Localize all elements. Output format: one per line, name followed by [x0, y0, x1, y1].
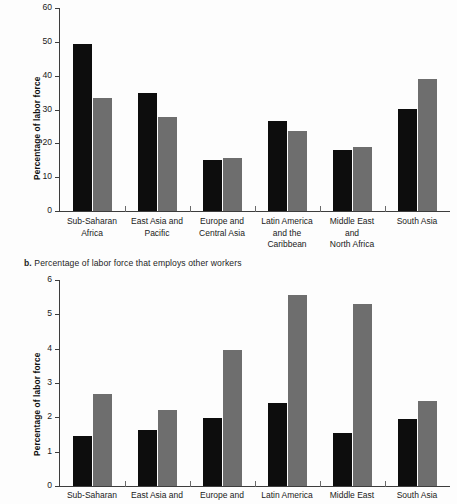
- x-category-label: Middle East and North Africa: [320, 216, 385, 251]
- x-group-separator: [385, 206, 386, 212]
- y-tick-mark: [55, 177, 59, 178]
- bar: [203, 418, 222, 486]
- x-category-label: South Asia: [385, 490, 450, 502]
- y-tick-label: 6: [29, 274, 52, 284]
- x-category-label: Latin America and the Caribbean: [255, 216, 320, 251]
- bar: [203, 160, 222, 211]
- bar: [333, 150, 352, 211]
- bar: [138, 430, 157, 486]
- y-tick-mark: [55, 314, 59, 315]
- figure-page: 0102030405060Percentage of labor forceSu…: [0, 0, 457, 504]
- bar: [268, 121, 287, 211]
- x-category-label: Europe and: [190, 490, 255, 502]
- bar: [93, 98, 112, 211]
- x-category-label: East Asia and Pacific: [125, 216, 190, 239]
- bar: [288, 295, 307, 486]
- x-category-label: South Asia: [385, 216, 450, 228]
- bar: [93, 394, 112, 486]
- x-group-separator: [190, 481, 191, 487]
- x-category-label: Middle East: [320, 490, 385, 502]
- bar: [138, 93, 157, 211]
- bar: [288, 131, 307, 211]
- y-tick-mark: [55, 143, 59, 144]
- y-tick-label: 5: [29, 308, 52, 318]
- bar: [398, 109, 417, 211]
- y-tick-mark: [55, 349, 59, 350]
- x-group-separator: [320, 206, 321, 212]
- y-tick-mark: [55, 280, 59, 281]
- y-axis-line: [59, 280, 60, 487]
- y-tick-mark: [55, 76, 59, 77]
- x-category-label: Sub-Saharan Africa: [60, 216, 125, 239]
- x-category-label: Latin America: [255, 490, 320, 502]
- bar: [418, 79, 437, 211]
- y-tick-mark: [55, 8, 59, 9]
- y-tick-label: 50: [29, 36, 52, 46]
- bar: [333, 433, 352, 486]
- y-tick-mark: [55, 383, 59, 384]
- x-group-separator: [385, 481, 386, 487]
- x-group-separator: [125, 481, 126, 487]
- y-tick-label: 0: [29, 205, 52, 215]
- bar: [418, 401, 437, 486]
- y-tick-mark: [55, 486, 59, 487]
- y-tick-mark: [55, 42, 59, 43]
- y-axis-title: Percentage of labor force: [32, 77, 42, 181]
- bar: [353, 147, 372, 211]
- x-group-separator: [320, 481, 321, 487]
- bar: [223, 350, 242, 486]
- y-tick-mark: [55, 452, 59, 453]
- x-group-separator: [255, 481, 256, 487]
- bar: [353, 304, 372, 486]
- x-category-label: East Asia and: [125, 490, 190, 502]
- y-tick-mark: [55, 417, 59, 418]
- x-category-label: Europe and Central Asia: [190, 216, 255, 239]
- plot-area-b: 0123456Percentage of labor forceSub-Saha…: [0, 256, 457, 504]
- bar: [268, 403, 287, 486]
- bar: [73, 436, 92, 486]
- y-tick-mark: [55, 211, 59, 212]
- chart-panel-b: b. Percentage of labor force that employ…: [0, 256, 457, 504]
- plot-area-a: 0102030405060Percentage of labor forceSu…: [0, 0, 457, 265]
- bar: [73, 44, 92, 211]
- y-axis-line: [59, 8, 60, 212]
- chart-panel-a: 0102030405060Percentage of labor forceSu…: [0, 0, 457, 265]
- x-group-separator: [190, 206, 191, 212]
- x-group-separator: [255, 206, 256, 212]
- y-tick-mark: [55, 110, 59, 111]
- bar: [398, 419, 417, 486]
- bar: [223, 158, 242, 211]
- y-axis-title: Percentage of labor force: [32, 353, 42, 457]
- y-tick-label: 0: [29, 480, 52, 490]
- y-tick-label: 60: [29, 2, 52, 12]
- bar: [158, 410, 177, 486]
- x-group-separator: [125, 206, 126, 212]
- x-category-label: Sub-Saharan: [60, 490, 125, 502]
- bar: [158, 117, 177, 211]
